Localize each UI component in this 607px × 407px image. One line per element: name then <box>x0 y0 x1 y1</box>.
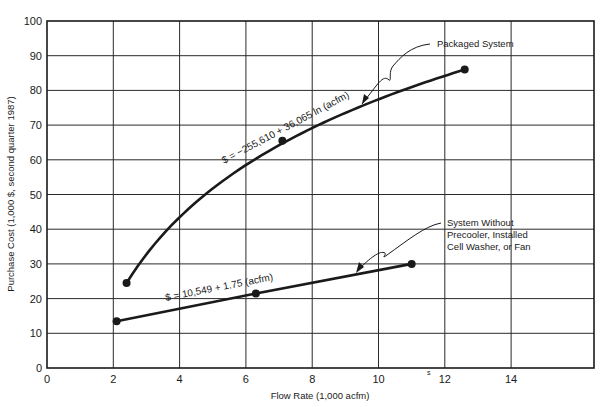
series <box>113 66 469 326</box>
y-tick-label: 30 <box>30 258 42 270</box>
chart-canvas: 0102030405060708090100 02468101214 Purch… <box>0 0 607 407</box>
x-tick-label: 6 <box>243 373 249 385</box>
y-tick-label: 80 <box>30 84 42 96</box>
callout-packaged-system: Packaged System <box>362 38 514 104</box>
annotation-system-without-line1: System Without <box>447 217 514 228</box>
series-packaged-system <box>123 66 469 287</box>
y-axis-ticks: 0102030405060708090100 <box>24 15 42 374</box>
y-tick-label: 0 <box>36 362 42 374</box>
callout-leader <box>362 44 430 104</box>
data-point-marker <box>123 279 131 287</box>
y-tick-label: 90 <box>30 50 42 62</box>
data-point-marker <box>252 289 260 297</box>
equation-packaged-system: $ = −255,610 + 36,065 ln (acfm) <box>220 89 351 166</box>
x-tick-label: 8 <box>309 373 315 385</box>
x-axis-title: Flow Rate (1,000 acfm) <box>271 390 370 401</box>
data-point-marker <box>461 66 469 74</box>
x-tick-label: 0 <box>44 373 50 385</box>
callout-system-without: System Without Precooler, Installed Cell… <box>356 217 531 273</box>
data-point-marker <box>278 137 286 145</box>
series-system-without <box>113 260 416 325</box>
y-tick-label: 100 <box>24 15 42 27</box>
data-point-marker <box>113 317 121 325</box>
y-tick-label: 60 <box>30 154 42 166</box>
y-axis-title: Purchase Cost (1,000 $, second quarter 1… <box>5 96 16 291</box>
annotation-system-without-line2: Precooler, Installed <box>447 229 528 240</box>
annotation-packaged-system: Packaged System <box>437 38 514 49</box>
x-tick-label: 12 <box>439 373 451 385</box>
chart: 0102030405060708090100 02468101214 Purch… <box>0 0 607 407</box>
series-line <box>127 70 465 283</box>
x-tick-label: 2 <box>110 373 116 385</box>
data-point-marker <box>408 260 416 268</box>
y-tick-label: 70 <box>30 119 42 131</box>
x-tick-label: 4 <box>177 373 183 385</box>
x-tick-label: 10 <box>372 373 384 385</box>
x-axis-ticks: 02468101214 <box>44 373 517 385</box>
stray-mark: s <box>427 369 431 376</box>
annotation-system-without-line3: Cell Washer, or Fan <box>447 241 531 252</box>
grid <box>47 21 594 368</box>
y-tick-label: 20 <box>30 293 42 305</box>
y-tick-label: 40 <box>30 223 42 235</box>
y-tick-label: 10 <box>30 327 42 339</box>
x-tick-label: 14 <box>505 373 517 385</box>
y-tick-label: 50 <box>30 189 42 201</box>
